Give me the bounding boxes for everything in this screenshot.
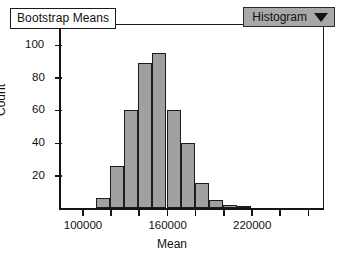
- histogram-bar[interactable]: [110, 166, 124, 209]
- histogram-bar[interactable]: [167, 110, 181, 208]
- histogram-bar[interactable]: [181, 143, 195, 208]
- x-tick-100000: [82, 209, 84, 216]
- y-tick-label-20: 20: [32, 169, 52, 181]
- histogram-panel: Bootstrap Means Histogram 20 40 60 80 10…: [0, 0, 344, 260]
- histogram-bar[interactable]: [209, 200, 223, 208]
- x-tick-minor-3: [195, 209, 197, 216]
- chevron-down-icon: [314, 13, 328, 22]
- histogram-bar[interactable]: [237, 206, 251, 208]
- x-tick-minor-4: [223, 209, 225, 216]
- histogram-bar[interactable]: [138, 63, 152, 209]
- y-axis-title: Count: [0, 84, 8, 116]
- histogram-bar[interactable]: [96, 198, 110, 208]
- x-tick-220000: [251, 209, 253, 216]
- histogram-bar[interactable]: [195, 183, 209, 208]
- x-tick-minor-1: [110, 209, 112, 216]
- y-tick-label-40: 40: [32, 136, 52, 148]
- x-tick-label-100000: 100000: [64, 219, 102, 231]
- y-tick-label-60: 60: [32, 103, 52, 115]
- x-tick-160000: [167, 209, 169, 216]
- chart-title-box: Bootstrap Means: [10, 8, 116, 29]
- x-tick-minor-2: [138, 209, 140, 216]
- plot-type-dropdown[interactable]: Histogram: [243, 7, 335, 27]
- x-axis-title: Mean: [0, 237, 344, 251]
- histogram-bar[interactable]: [152, 53, 166, 208]
- x-tick-label-160000: 160000: [148, 219, 186, 231]
- x-tick-minor-6: [308, 209, 310, 216]
- x-tick-label-220000: 220000: [233, 219, 271, 231]
- y-tick-label-100: 100: [25, 38, 52, 50]
- histogram-bar[interactable]: [124, 110, 138, 208]
- histogram-bar[interactable]: [223, 205, 237, 208]
- x-tick-minor-5: [279, 209, 281, 216]
- y-tick-label-80: 80: [32, 71, 52, 83]
- histogram-bars: [60, 24, 323, 208]
- plot-type-dropdown-label: Histogram: [252, 10, 307, 24]
